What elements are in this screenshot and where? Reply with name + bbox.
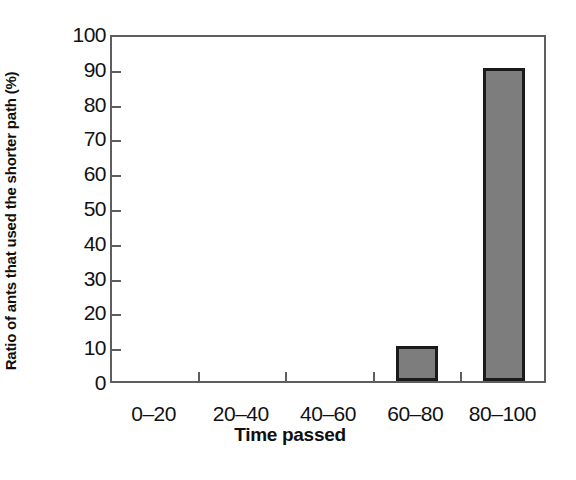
- x-axis-tick-label: 20–40: [197, 403, 284, 424]
- x-axis-title: Time passed: [190, 424, 390, 446]
- x-axis-tick-label: 80–100: [459, 403, 546, 424]
- y-axis-tick-labels: 0102030405060708090100: [56, 0, 106, 480]
- x-axis-tick-mark: [198, 372, 200, 381]
- bar: [396, 346, 438, 381]
- y-axis-tick-label: 60: [56, 163, 106, 184]
- y-axis-tick-label: 70: [56, 128, 106, 149]
- plot-area: [110, 35, 546, 383]
- y-axis-tick-mark: [112, 210, 121, 212]
- y-axis-tick-label: 50: [56, 198, 106, 219]
- y-axis-tick-mark: [112, 245, 121, 247]
- bar-chart-figure: Ratio of ants that used the shorter path…: [0, 0, 576, 480]
- x-axis-tick-mark: [460, 372, 462, 381]
- y-axis-tick-mark: [112, 349, 121, 351]
- y-axis-tick-label: 30: [56, 268, 106, 289]
- x-axis-tick-label: 0–20: [110, 403, 197, 424]
- y-axis-tick-mark: [112, 175, 121, 177]
- y-axis-tick-mark: [112, 314, 121, 316]
- y-axis-tick-label: 100: [56, 24, 106, 45]
- y-axis-tick-mark: [112, 280, 121, 282]
- plot-inner: [112, 37, 544, 381]
- x-axis-tick-label: 40–60: [284, 403, 371, 424]
- bar: [483, 68, 525, 381]
- y-axis-tick-mark: [112, 71, 121, 73]
- x-axis-tick-mark: [285, 372, 287, 381]
- y-axis-tick-label: 40: [56, 233, 106, 254]
- y-axis-tick-label: 90: [56, 59, 106, 80]
- y-axis-tick-label: 80: [56, 94, 106, 115]
- y-axis-tick-label: 20: [56, 302, 106, 323]
- x-axis-tick-label: 60–80: [372, 403, 459, 424]
- y-axis-tick-label: 10: [56, 337, 106, 358]
- y-axis-tick-mark: [112, 106, 121, 108]
- x-axis-tick-mark: [373, 372, 375, 381]
- y-axis-tick-mark: [112, 140, 121, 142]
- y-axis-tick-label: 0: [56, 372, 106, 393]
- y-axis-title: Ratio of ants that used the shorter path…: [0, 41, 22, 401]
